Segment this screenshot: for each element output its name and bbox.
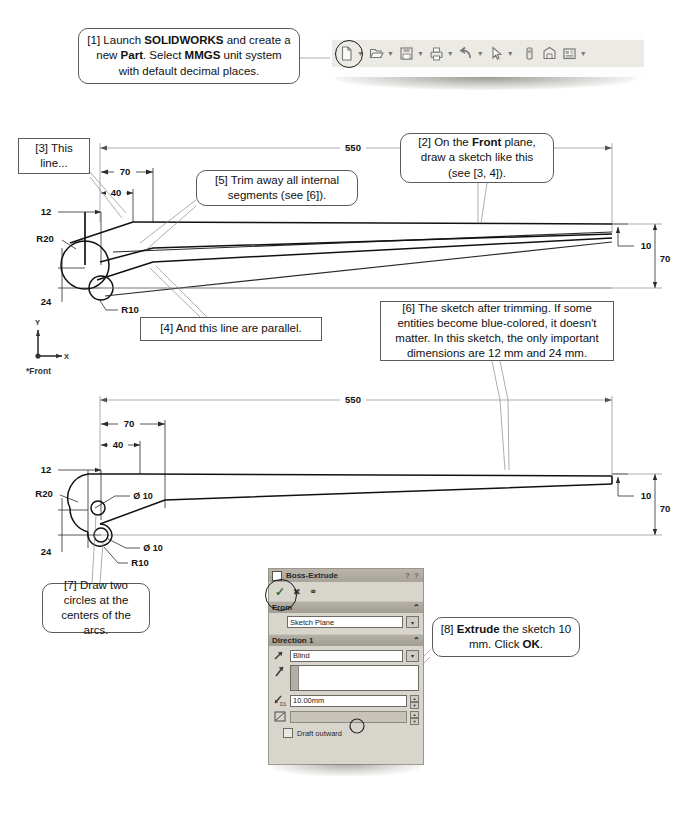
draft-outward-row[interactable]: Draft outward: [273, 726, 419, 738]
open-folder-caret[interactable]: ▼: [387, 50, 394, 57]
direction1-collapse-icon[interactable]: ⌃: [413, 636, 420, 645]
depth-stepper[interactable]: ▲ ▼: [410, 695, 419, 707]
top-arc-R10-circle: [89, 276, 113, 300]
dim-label-24-bot: 24: [41, 546, 52, 557]
accept-ok-highlight-circle: [265, 579, 297, 611]
dim-40-arrow-right-top: [127, 191, 133, 195]
save-icon[interactable]: [398, 45, 415, 62]
bot-circle-upper-dia10: [91, 501, 105, 515]
toolbar-item-rebuild[interactable]: [521, 45, 538, 62]
property-manager-title-bar: Boss-Extrude ? ?: [269, 569, 423, 582]
reverse-direction-icon[interactable]: [273, 649, 287, 662]
toolbar-item-print[interactable]: ▼: [428, 45, 457, 62]
draft-stepper-down[interactable]: ▼: [410, 718, 419, 725]
toolbar-item-select[interactable]: ▼: [488, 45, 517, 62]
callout-step-1: [1] Launch SOLIDWORKS and create a new P…: [78, 28, 300, 84]
dim-R20-leader-top: [62, 240, 76, 249]
end-condition-dropdown-icon[interactable]: ▾: [406, 650, 419, 662]
callout-step-2-text: [2] On the Front plane, draw a sketch li…: [408, 135, 546, 181]
dim-R20-leader-bot: [60, 495, 78, 502]
leader-step-4b: [156, 266, 207, 317]
direction-reference-gutter: [291, 666, 299, 690]
draft-angle-icon[interactable]: [273, 710, 287, 723]
dim-40-arrow-left-top: [101, 191, 107, 195]
undo-icon[interactable]: [458, 45, 475, 62]
draft-angle-stepper[interactable]: ▲ ▼: [410, 711, 419, 723]
toolbar-item-display-manager[interactable]: ▼: [561, 45, 590, 62]
help-icon[interactable]: ? ?: [405, 571, 420, 580]
toolbar-item-undo[interactable]: ▼: [458, 45, 487, 62]
depth-stepper-down[interactable]: ▼: [410, 702, 419, 709]
bot-arc-R20: [68, 474, 88, 532]
depth-input[interactable]: 10.00mm: [290, 695, 407, 707]
select-cursor-caret[interactable]: ▼: [507, 50, 514, 57]
direction-reference-field[interactable]: [290, 665, 419, 691]
rebuild-icon[interactable]: [521, 45, 538, 62]
draft-angle-input[interactable]: [290, 711, 407, 723]
dim-R10-leader-top: [99, 299, 118, 310]
callout-step-5: [5] Trim away all internal segments (see…: [196, 170, 358, 206]
dim-550-arrow-right-bot: [605, 398, 612, 403]
dim-label-70-right-bot: 70: [660, 503, 671, 514]
dim-label-R10-top: R10: [121, 304, 138, 315]
dim-R10-leader-bot: [104, 547, 128, 563]
toolbar-strip: ▼ ▼ ▼ ▼: [332, 40, 644, 67]
dim-550-arrow-left-top: [100, 146, 107, 151]
options-toggle-icon[interactable]: [541, 45, 558, 62]
toolbar-item-options[interactable]: [541, 45, 558, 62]
print-icon[interactable]: [428, 45, 445, 62]
detailed-preview-button[interactable]: ⚭: [309, 586, 317, 597]
from-collapse-icon[interactable]: ⌃: [413, 603, 420, 612]
from-section-body: Sketch Plane ▾: [269, 613, 423, 634]
dim-550-arrow-right-top: [605, 146, 612, 151]
draft-angle-row: ▲ ▼: [273, 710, 419, 723]
dim-label-24-top: 24: [41, 296, 52, 307]
print-caret[interactable]: ▼: [447, 50, 454, 57]
depth-stepper-up[interactable]: ▲: [410, 695, 419, 702]
open-folder-icon[interactable]: [368, 45, 385, 62]
sketch-plane-dropdown-icon[interactable]: ▾: [406, 616, 419, 628]
dim-label-10-top: 10: [641, 240, 652, 251]
draft-stepper-up[interactable]: ▲: [410, 711, 419, 718]
top-edge-upper-horizontal: [133, 222, 612, 224]
dim-70-label-bg-top: [114, 165, 136, 178]
sketch-plane-row: Sketch Plane ▾: [273, 616, 419, 628]
save-caret[interactable]: ▼: [417, 50, 424, 57]
boss-extrude-property-manager: Boss-Extrude ? ? ✓ ✖ ⚭ From ⌃ Sketch Pla…: [268, 568, 424, 765]
dim-70-arrow-left-top: [101, 170, 108, 175]
leader-step-2b: [481, 183, 487, 223]
sketch-plane-value: Sketch Plane: [290, 618, 334, 627]
select-cursor-icon[interactable]: [488, 45, 505, 62]
callout-step-1-text: [1] Launch SOLIDWORKS and create a new P…: [86, 33, 292, 79]
dim-40-arrow-right-bot: [134, 443, 140, 447]
dim-label-R20-top: R20: [36, 233, 53, 244]
dim-label-550-top: 550: [345, 142, 361, 153]
dim-12-arrow-bot: [95, 468, 101, 472]
toolbar-item-save[interactable]: ▼: [398, 45, 427, 62]
callout-step-3: [3] This line...: [18, 138, 90, 174]
direction1-section-label: Direction 1: [272, 636, 313, 645]
sketch-plane-select[interactable]: Sketch Plane: [287, 616, 403, 628]
draft-outward-label: Draft outward: [297, 729, 342, 738]
display-manager-caret[interactable]: ▼: [580, 50, 587, 57]
dim-70-arrow-right-top: [146, 170, 153, 175]
toolbar-item-open[interactable]: ▼: [368, 45, 397, 62]
dim-40-label-bg-bot: [108, 438, 128, 451]
dim-70r-arrow-up-bot: [653, 474, 657, 480]
callout-step-8: [8] Extrude the sketch 10 mm. Click OK.: [432, 617, 580, 657]
draft-outward-checkbox[interactable]: [283, 728, 293, 738]
direction-vector-icon[interactable]: [273, 665, 287, 678]
undo-caret[interactable]: ▼: [477, 50, 484, 57]
dim-label-10-bot: 10: [641, 490, 652, 501]
direction1-section-header[interactable]: Direction 1 ⌃: [269, 634, 423, 646]
property-manager-title: Boss-Extrude: [286, 571, 338, 580]
display-manager-icon[interactable]: [561, 45, 578, 62]
leader-step-6a: [492, 361, 505, 470]
dim-40-arrow-left-bot: [101, 443, 107, 447]
end-condition-select[interactable]: Blind: [290, 650, 403, 662]
dim-label-70-right-top: 70: [660, 253, 671, 264]
dim-10-arrow-bot: [616, 477, 620, 483]
dim-70-arrow-right-bot: [158, 422, 165, 427]
callout-step-7: [7] Draw two circles at the centers of t…: [42, 583, 150, 633]
axis-x-label: X: [64, 352, 69, 361]
